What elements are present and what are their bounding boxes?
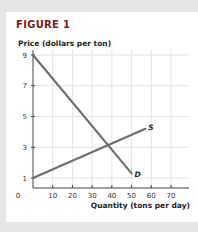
figure-card: FIGURE 1 Price (dollars per ton) Quantit… (6, 12, 198, 222)
chart-plot: 10203040506070135790DS (6, 12, 198, 222)
y-tick-label: 9 (23, 52, 27, 60)
x-tick-label: 20 (68, 192, 77, 200)
y-tick-label: 3 (23, 144, 27, 152)
x-tick-label: 10 (48, 192, 57, 200)
x-tick-label: 60 (147, 192, 156, 200)
y-tick-label: 7 (23, 82, 27, 90)
y-tick-label: 5 (23, 113, 27, 121)
series-label-s: S (148, 123, 153, 132)
series-label-d: D (135, 170, 141, 179)
x-tick-label: 50 (127, 192, 136, 200)
x-tick-label: 40 (107, 192, 116, 200)
x-tick-label: 30 (88, 192, 97, 200)
y-tick-label: 1 (23, 175, 27, 183)
x-tick-label: 70 (167, 192, 176, 200)
origin-label: 0 (16, 192, 20, 200)
